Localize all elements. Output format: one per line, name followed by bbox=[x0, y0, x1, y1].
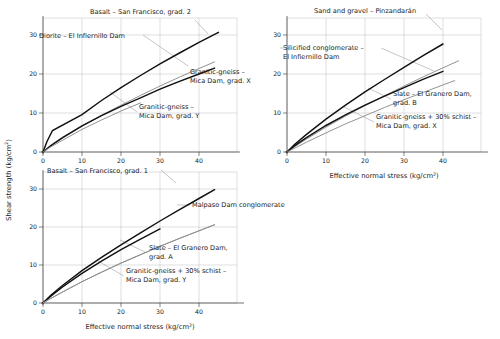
label-silicified-conglomerate-line1: Silicified conglomerate – bbox=[283, 44, 364, 52]
panel-bottom-left: 0 10 20 30 0 10 20 30 40 bbox=[12, 158, 256, 339]
label-silicified-conglomerate-line2: El Infiernillo Dam bbox=[283, 53, 339, 61]
ytick-0: 0 bbox=[33, 299, 37, 306]
label-granitic-schist-mica-x-line2: Mica Dam, grad. X bbox=[376, 122, 437, 130]
xtick-40: 40 bbox=[195, 308, 203, 315]
xtick-10: 10 bbox=[322, 157, 330, 164]
xtick-0: 0 bbox=[41, 308, 45, 315]
xtick-30: 30 bbox=[400, 157, 408, 164]
ytick-30: 30 bbox=[29, 185, 37, 192]
x-axis-label-top-right: Effective normal stress (kg/cm2) bbox=[329, 172, 439, 180]
label-slate-granero-b-line1: Slate – El Granero Dam, bbox=[393, 90, 472, 98]
xtick-0: 0 bbox=[285, 157, 289, 164]
leader-lines-top-right bbox=[280, 14, 442, 122]
shear-strength-figure: Shear strength (kg/cm2) bbox=[0, 0, 500, 339]
ytick-30: 30 bbox=[29, 31, 37, 38]
label-basalt-sf-grad2: Basalt – San Francisco, grad. 2 bbox=[90, 8, 191, 16]
x-axis-label-bottom-left: Effective normal stress (kg/cm2) bbox=[85, 323, 195, 331]
x-axis-label-text: Effective normal stress (kg/cm bbox=[329, 172, 433, 180]
x-axis-label-tail: ) bbox=[192, 323, 195, 331]
label-diorite-infiernillo: Diorite – El Infiernillo Dam bbox=[39, 32, 125, 40]
label-granitic-schist-mica-x-line1: Granitic-gneiss + 30% schist – bbox=[376, 113, 476, 121]
label-sand-gravel-pinzandaran: Sand and gravel – Pinzandarán bbox=[314, 7, 416, 15]
panel-top-right: 0 10 20 30 0 10 20 30 40 bbox=[256, 4, 500, 184]
curves-top-left bbox=[43, 32, 219, 152]
label-granitic-schist-mica-y-line2: Mica Dam, grad. Y bbox=[126, 276, 187, 284]
ytick-20: 20 bbox=[29, 223, 37, 230]
xtick-20: 20 bbox=[361, 157, 369, 164]
label-slate-granero-a-line1: Slate – El Granero Dam, bbox=[149, 244, 228, 252]
label-malpaso-conglomerate: Malpaso Dam conglomerate bbox=[192, 201, 285, 209]
x-axis-label-text: Effective normal stress (kg/cm bbox=[85, 323, 189, 331]
label-granitic-schist-mica-y-line1: Granitic-gneiss + 30% schist – bbox=[126, 267, 226, 275]
panel-top-left: 0 10 20 30 0 10 20 30 40 bbox=[12, 4, 247, 172]
annotations-top-right: Sand and gravel – Pinzandarán Silicified… bbox=[283, 7, 476, 130]
ytick-10: 10 bbox=[273, 109, 281, 116]
label-basalt-sf-grad1: Basalt – San Francisco, grad. 1 bbox=[47, 167, 148, 175]
label-granitic-gneiss-mica-x-line2: Mica Dam, grad. X bbox=[190, 77, 251, 85]
label-granitic-gneiss-mica-y-line2: Mica Dam, grad. Y bbox=[139, 112, 200, 120]
label-slate-granero-a-line2: grad. A bbox=[149, 253, 173, 261]
xtick-30: 30 bbox=[156, 308, 164, 315]
xtick-20: 20 bbox=[117, 308, 125, 315]
label-slate-granero-b-line2: grad. B bbox=[393, 99, 417, 107]
ytick-10: 10 bbox=[29, 109, 37, 116]
curve-malpaso-conglomerate bbox=[43, 229, 160, 303]
ytick-0: 0 bbox=[33, 148, 37, 155]
x-axis-label-tail: ) bbox=[436, 172, 439, 180]
curve-silicified-conglomerate bbox=[287, 61, 459, 152]
leader-lines-bottom-left bbox=[98, 170, 190, 276]
ytick-10: 10 bbox=[29, 261, 37, 268]
curve-granitic-schist-mica-y bbox=[43, 225, 215, 303]
label-granitic-gneiss-mica-x-line1: Granitic-gneiss – bbox=[190, 68, 245, 76]
ytick-20: 20 bbox=[273, 70, 281, 77]
annotations-top-left: Basalt – San Francisco, grad. 2 Diorite … bbox=[39, 8, 251, 120]
curve-slate-granero-a bbox=[43, 225, 215, 303]
label-granitic-gneiss-mica-y-line1: Granitic-gneiss – bbox=[139, 103, 194, 111]
ytick-20: 20 bbox=[29, 70, 37, 77]
xtick-40: 40 bbox=[439, 157, 447, 164]
ytick-30: 30 bbox=[273, 31, 281, 38]
annotations-bottom-left: Basalt – San Francisco, grad. 1 Malpaso … bbox=[47, 167, 285, 284]
ytick-0: 0 bbox=[277, 148, 281, 155]
xtick-10: 10 bbox=[78, 308, 86, 315]
